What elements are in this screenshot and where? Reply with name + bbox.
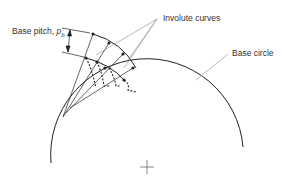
tangent-lines	[63, 34, 133, 117]
center-mark	[140, 160, 154, 174]
leader-lines	[96, 19, 228, 80]
base-pitch-dimension	[62, 28, 90, 57]
involute-curves-label: Involute curves	[163, 13, 220, 23]
base-circle-arc	[51, 59, 243, 163]
base-pitch-label: Base pitch, pb	[12, 26, 65, 38]
base-circle-label: Base circle	[232, 48, 274, 58]
